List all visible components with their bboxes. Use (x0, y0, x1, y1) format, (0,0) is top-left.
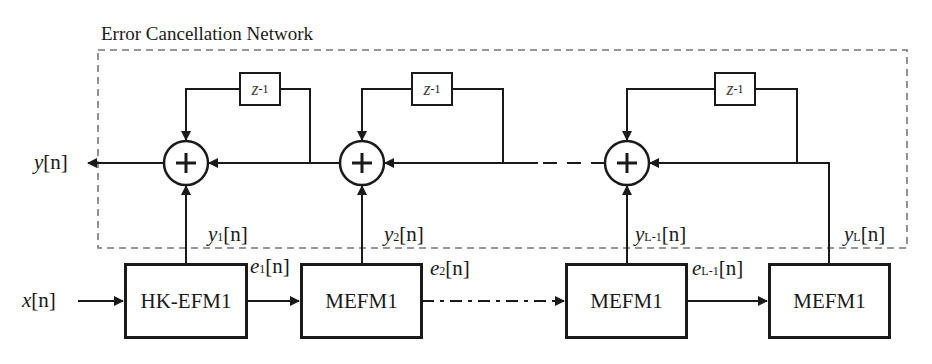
e2-sub: 2 (439, 264, 445, 278)
output-suffix: [n] (43, 150, 68, 174)
delay-exp: -1 (259, 82, 269, 97)
el-1-label: eL-1[n] (692, 258, 743, 279)
delay-exp: -1 (734, 82, 744, 97)
network-title: Error Cancellation Network (101, 24, 313, 43)
y2-suffix: [n] (399, 222, 424, 246)
output-var: y (34, 150, 43, 174)
delay-block-1: z-1 (239, 72, 281, 106)
input-label: x[n] (22, 290, 56, 311)
delay-exp: -1 (431, 82, 441, 97)
delay-block-3: z-1 (714, 72, 756, 106)
y1-suffix: [n] (223, 222, 248, 246)
yl-1-var: y (635, 222, 644, 246)
y2-label: y2[n] (384, 224, 424, 245)
e1-sub: 1 (259, 262, 265, 276)
el-1-var: e (692, 256, 701, 280)
yl-suffix: [n] (861, 222, 886, 246)
y1-label: y1[n] (208, 224, 248, 245)
block-mefm1-l-1: MEFM1 (565, 263, 688, 339)
e2-var: e (430, 256, 439, 280)
y1-sub: 1 (217, 230, 223, 244)
yl-1-suffix: [n] (662, 222, 687, 246)
y1-var: y (208, 222, 217, 246)
e1-suffix: [n] (265, 254, 290, 278)
y2-sub: 2 (393, 230, 399, 244)
input-suffix: [n] (31, 288, 56, 312)
input-var: x (22, 288, 31, 312)
yl-1-sub: L-1 (644, 230, 661, 244)
delay-var: z (251, 79, 258, 100)
y2-var: y (384, 222, 393, 246)
delay-var: z (726, 79, 733, 100)
el-1-suffix: [n] (719, 256, 744, 280)
e1-var: e (250, 254, 259, 278)
el-1-sub: L-1 (701, 264, 718, 278)
yl-label: yL[n] (844, 224, 885, 245)
yl-var: y (844, 222, 853, 246)
block-hk-efm1: HK-EFM1 (124, 263, 248, 339)
output-label: y[n] (34, 152, 68, 173)
block-mefm1-l: MEFM1 (768, 263, 891, 339)
e2-suffix: [n] (445, 256, 470, 280)
block-mefm1-2: MEFM1 (300, 263, 423, 339)
e1-label: e1[n] (250, 256, 290, 277)
yl-1-label: yL-1[n] (635, 224, 686, 245)
delay-var: z (423, 79, 430, 100)
delay-block-2: z-1 (411, 72, 453, 106)
e2-label: e2[n] (430, 258, 470, 279)
yl-sub: L (853, 230, 860, 244)
